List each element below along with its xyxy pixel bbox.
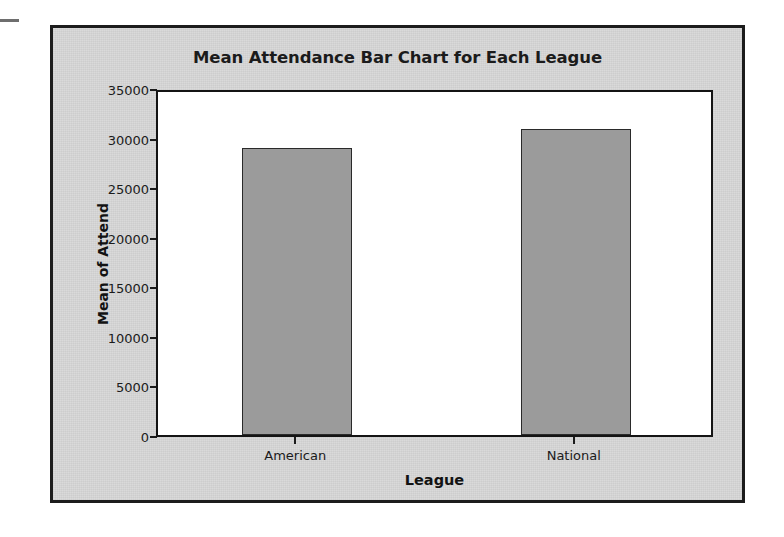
bar-national: [521, 129, 631, 435]
y-tick-label: 10000: [108, 330, 149, 345]
y-axis-tick-labels: 05000100001500020000250003000035000: [89, 90, 149, 437]
plot-area: [156, 90, 713, 437]
y-tick-label: 20000: [108, 231, 149, 246]
scan-artifact-mark: [0, 19, 19, 22]
y-tick-label: 0: [141, 430, 149, 445]
x-tick-label-national: National: [547, 448, 601, 463]
y-tick-label: 30000: [108, 132, 149, 147]
x-tick-mark: [573, 437, 575, 444]
bar-american: [242, 148, 352, 435]
chart-object-frame: Mean Attendance Bar Chart for Each Leagu…: [50, 25, 745, 503]
y-tick-label: 5000: [116, 380, 149, 395]
y-tick-label: 35000: [108, 83, 149, 98]
x-axis-title: League: [156, 472, 713, 488]
y-tick-label: 25000: [108, 182, 149, 197]
chart-title: Mean Attendance Bar Chart for Each Leagu…: [53, 48, 742, 67]
y-tick-label: 15000: [108, 281, 149, 296]
x-tick-mark: [294, 437, 296, 444]
x-tick-label-american: American: [264, 448, 326, 463]
